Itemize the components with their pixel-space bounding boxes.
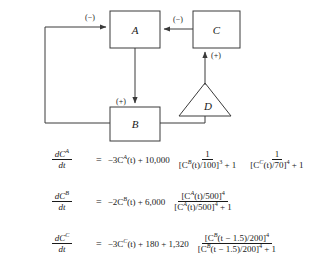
node-d-label: D	[203, 100, 212, 112]
eq2-f1-den-pre: [C	[174, 202, 183, 212]
edge-a-to-b-sign: (+)	[116, 97, 126, 106]
eq1-f2-den-post: + 1	[290, 160, 304, 170]
eq1-f2-num: 1	[272, 149, 283, 160]
eq3-f1-num-exp: 4	[266, 231, 269, 238]
eq1-f2-den-pre: [C	[250, 160, 259, 170]
eq2-linear-rest: (t) + 6,000	[127, 197, 165, 207]
eq1-f1-den-post: + 1	[222, 160, 236, 170]
eq1-fraction-2: 1 [CC(t)/70]4 + 1	[247, 149, 306, 171]
eq1-fraction-1: 1 [CB(t)/100]3 + 1	[176, 149, 239, 171]
eq1-equals: =	[90, 154, 108, 165]
eq1-f1-den-mid: (t)/100]	[192, 160, 220, 170]
eq3-lhs-den: dt	[58, 244, 65, 254]
figure-container: A C B D (−)	[0, 0, 312, 274]
eq1-lhs-num-sub: A	[65, 147, 69, 154]
node-a-label: A	[131, 24, 139, 36]
eq1-f2-den-mid: (t)/70]	[263, 160, 286, 170]
eq2-lhs-den: dt	[58, 202, 65, 212]
node-a: A	[110, 11, 160, 48]
edge-d-to-c-sign: (+)	[211, 51, 221, 60]
eq3-f1-den-post: + 1	[262, 244, 276, 254]
node-b: B	[110, 107, 160, 141]
eq1-fractions: 1 [CB(t)/100]3 + 1 1 [CC(t)/70]4 + 1	[176, 149, 307, 171]
eq3-linear: −3CC(t) + 180 + 1,320	[108, 239, 195, 249]
eq2-lhs-num: dC	[55, 191, 66, 201]
eq3-linear-coef: −3C	[108, 239, 124, 249]
eq3-f1-den: [CB(t − 1.5)/200]4 + 1	[195, 244, 279, 254]
eq1-lhs-den: dt	[58, 160, 65, 170]
eq2-linear-coef: −2C	[108, 197, 124, 207]
eq3-equals: =	[90, 238, 108, 249]
eq3-f1-den-pre: [C	[198, 244, 207, 254]
eq2-lhs: dCB dt	[0, 191, 90, 213]
eq2-fraction-1: [CA(t)/500]4 [CA(t)/500]4 + 1	[171, 191, 234, 213]
equation-dCA-dt: dCA dt = −3CA(t) + 10,000 1 [CB(t)/100]3…	[0, 149, 312, 171]
edge-c-to-a-sign: (−)	[173, 15, 183, 24]
node-d: D	[179, 83, 231, 116]
eq3-linear-rest: (t) + 180 + 1,320	[127, 239, 188, 249]
edge-d-to-c: (+)	[205, 51, 221, 85]
eq1-f2-den: [CC(t)/70]4 + 1	[247, 160, 306, 170]
eq2-f1-num-exp: 4	[222, 189, 225, 196]
eq1-linear-rest: (t) + 10,000	[127, 155, 170, 165]
edge-c-to-a: (−)	[164, 15, 193, 29]
eq3-fractions: [CB(t − 1.5)/200]4 [CB(t − 1.5)/200]4 + …	[195, 233, 279, 255]
eq1-linear: −3CA(t) + 10,000	[108, 155, 176, 165]
eq3-lhs: dCC dt	[0, 233, 90, 255]
eq1-f1-num: 1	[202, 149, 213, 160]
eq1-f1-den: [CB(t)/100]3 + 1	[176, 160, 239, 170]
eq1-linear-coef: −3C	[108, 155, 124, 165]
eq1-lhs: dCA dt	[0, 149, 90, 171]
eq3-lhs-num: dC	[55, 233, 66, 243]
edge-b-to-a-sign: (−)	[85, 13, 95, 22]
edge-b-to-a: (−)	[45, 13, 110, 123]
eq1-f1-den-pre: [C	[179, 160, 188, 170]
block-diagram: A C B D (−)	[0, 0, 312, 145]
equation-dCB-dt: dCB dt = −2CB(t) + 6,000 [CA(t)/500]4 [C…	[0, 191, 312, 213]
eq2-f1-den-mid: (t)/500]	[187, 202, 215, 212]
eq2-equals: =	[90, 196, 108, 207]
eq2-linear: −2CB(t) + 6,000	[108, 197, 172, 207]
edge-a-to-b: (+)	[116, 48, 135, 106]
eq2-f1-den: [CA(t)/500]4 + 1	[171, 202, 234, 212]
node-b-label: B	[132, 118, 139, 130]
equation-dCC-dt: dCC dt = −3CC(t) + 180 + 1,320 [CB(t − 1…	[0, 233, 312, 255]
eq2-lhs-num-sub: B	[65, 189, 69, 196]
eq3-f1-den-mid: (t − 1.5)/200]	[211, 244, 259, 254]
node-c-label: C	[213, 24, 221, 36]
node-c: C	[193, 11, 240, 48]
eq2-fractions: [CA(t)/500]4 [CA(t)/500]4 + 1	[171, 191, 234, 213]
eq2-f1-den-post: + 1	[218, 202, 232, 212]
eq3-fraction-1: [CB(t − 1.5)/200]4 [CB(t − 1.5)/200]4 + …	[195, 233, 279, 255]
eq3-lhs-num-sub: C	[65, 231, 69, 238]
equation-block: dCA dt = −3CA(t) + 10,000 1 [CB(t)/100]3…	[0, 145, 312, 274]
edge-b-to-d	[160, 116, 205, 123]
eq1-lhs-num: dC	[55, 149, 66, 159]
